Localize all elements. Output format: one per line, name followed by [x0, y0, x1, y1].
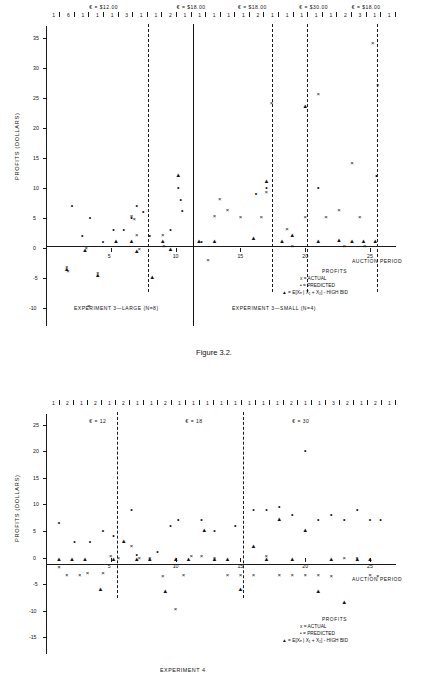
data-point-dot: • — [356, 507, 358, 513]
top-tick — [381, 400, 382, 405]
data-point-x: × — [135, 233, 139, 239]
top-count-label: 1 — [178, 400, 181, 406]
top-count-label: 6 — [67, 12, 70, 18]
data-point-dot: • — [317, 518, 319, 524]
data-point-x: × — [291, 573, 295, 579]
x-tick-label: 10 — [173, 563, 179, 569]
data-point-triangle: ▲ — [367, 558, 373, 564]
data-point-dot: • — [343, 518, 345, 524]
top-tick — [263, 12, 264, 17]
top-tick — [227, 400, 228, 405]
top-tick — [88, 12, 89, 17]
data-point-triangle: ▲ — [110, 557, 116, 563]
top-tick — [293, 12, 294, 17]
data-point-dot: • — [112, 227, 114, 233]
fig2-divider-2 — [243, 412, 244, 598]
data-point-triangle: ▲ — [289, 558, 295, 564]
top-condition-label: € = 30 — [292, 418, 309, 424]
data-point-triangle: ▲ — [82, 558, 88, 564]
top-tick — [325, 400, 326, 405]
data-point-dot: • — [200, 518, 202, 524]
top-count-label: 1 — [304, 400, 307, 406]
top-condition-label: € = $18.00 — [238, 4, 267, 10]
data-point-triangle: ▲ — [263, 179, 269, 185]
y-tick-label: 15 — [33, 155, 39, 161]
top-count-label: 1 — [52, 400, 55, 406]
data-point-triangle: ▲ — [201, 528, 207, 534]
top-tick — [311, 400, 312, 405]
data-point-dot: • — [71, 203, 73, 209]
top-tick — [59, 400, 60, 405]
top-count-label: 2 — [164, 400, 167, 406]
data-point-x: × — [78, 573, 82, 579]
top-tick — [73, 400, 74, 405]
top-tick — [74, 12, 75, 17]
data-point-triangle: ▲ — [186, 558, 192, 564]
top-count-label: 1 — [154, 12, 157, 18]
y-tick-label: -5 — [33, 275, 38, 281]
data-point-triangle: ▲ — [276, 518, 282, 524]
top-condition-label: € = 18 — [186, 418, 203, 424]
top-tick — [103, 12, 104, 17]
top-tick — [157, 400, 158, 405]
top-count-label: 2 — [94, 400, 97, 406]
top-tick — [351, 12, 352, 17]
fig1-legend-item-predicted: • = PREDICTED — [300, 282, 348, 289]
top-count-label: 2 — [374, 400, 377, 406]
top-count-label: 1 — [150, 400, 153, 406]
x-tick-label: 15 — [237, 253, 243, 259]
data-point-x: × — [200, 554, 204, 560]
data-point-dot: • — [379, 518, 381, 524]
x-tick — [370, 248, 371, 252]
fig2-bottom-label: EXPERIMENT 4 — [160, 667, 205, 673]
data-point-x: × — [342, 244, 346, 250]
data-point-x: × — [130, 544, 134, 550]
fig2-x-axis — [46, 564, 396, 565]
data-point-x: × — [324, 215, 328, 221]
top-tick — [199, 400, 200, 405]
data-point-x: × — [162, 244, 166, 250]
top-count-label: 1 — [234, 400, 237, 406]
top-count-label: 1 — [373, 12, 376, 18]
data-point-x: × — [57, 565, 61, 571]
data-point-dot: • — [123, 227, 125, 233]
data-point-triangle: ▲ — [336, 238, 342, 244]
y-tick — [43, 478, 47, 479]
data-point-dot: • — [142, 209, 144, 215]
top-condition-label: € = 12 — [89, 418, 106, 424]
fig1-left-group-label: EXPERIMENT 3—LARGE (N=8) — [74, 305, 159, 311]
fig1-divider-3 — [307, 24, 308, 292]
fig1-divider-1 — [148, 24, 149, 292]
data-point-x: × — [337, 209, 341, 215]
data-point-dot: • — [58, 520, 60, 526]
data-point-x: × — [316, 92, 320, 98]
top-tick — [269, 400, 270, 405]
x-tick-label: 5 — [108, 253, 111, 259]
data-point-triangle: ▲ — [302, 528, 308, 534]
x-tick-label: 20 — [302, 563, 308, 569]
fig2-y-axis — [46, 414, 47, 654]
y-tick — [43, 128, 47, 129]
top-count-label: 1 — [388, 400, 391, 406]
data-point-dot: • — [213, 528, 215, 534]
data-point-triangle: ▲ — [212, 239, 218, 245]
data-point-x: × — [252, 573, 256, 579]
fig1-divider-4 — [377, 24, 378, 292]
data-point-dot: • — [112, 534, 114, 540]
top-count-label: 1 — [140, 12, 143, 18]
y-tick — [43, 248, 47, 249]
top-count-label: 1 — [108, 400, 111, 406]
data-point-x: × — [182, 573, 186, 579]
data-point-triangle: ▲ — [134, 249, 140, 255]
data-point-x: × — [239, 573, 243, 579]
y-tick-label: 20 — [33, 448, 39, 454]
data-point-x: × — [239, 215, 243, 221]
figure-1-caption: Figure 3.2. — [0, 348, 428, 357]
data-point-triangle: ▲ — [95, 273, 101, 279]
data-point-triangle: ▲ — [162, 589, 168, 595]
figure-2: PROFITS (DOLLARS) 2520151050-5-10-15 510… — [0, 392, 428, 688]
data-point-dot: • — [304, 448, 306, 454]
data-point-triangle: ▲ — [134, 558, 140, 564]
top-tick — [336, 12, 337, 17]
data-point-x: × — [265, 191, 269, 197]
